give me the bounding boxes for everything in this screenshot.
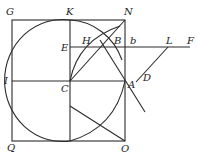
label-q: Q [7, 142, 15, 153]
diagram-canvas: G K N E H B b L F I C A D Q O [0, 0, 197, 154]
line-ld [136, 47, 168, 82]
line-bd [100, 40, 145, 112]
label-e: E [60, 42, 69, 53]
label-b: B [113, 35, 121, 46]
label-d: D [142, 72, 151, 83]
label-f: F [186, 35, 195, 46]
label-k: K [65, 6, 74, 17]
line-to-o [70, 106, 125, 141]
label-g: G [6, 6, 14, 17]
label-h: H [81, 35, 91, 46]
label-i: I [3, 75, 9, 86]
label-b-small: b [130, 35, 136, 46]
label-c: C [61, 83, 69, 94]
label-l: L [165, 35, 173, 46]
geometry-diagram: G K N E H B b L F I C A D Q O [0, 0, 197, 154]
label-a: A [127, 79, 135, 90]
label-n: N [123, 6, 134, 17]
label-o: O [121, 143, 129, 154]
